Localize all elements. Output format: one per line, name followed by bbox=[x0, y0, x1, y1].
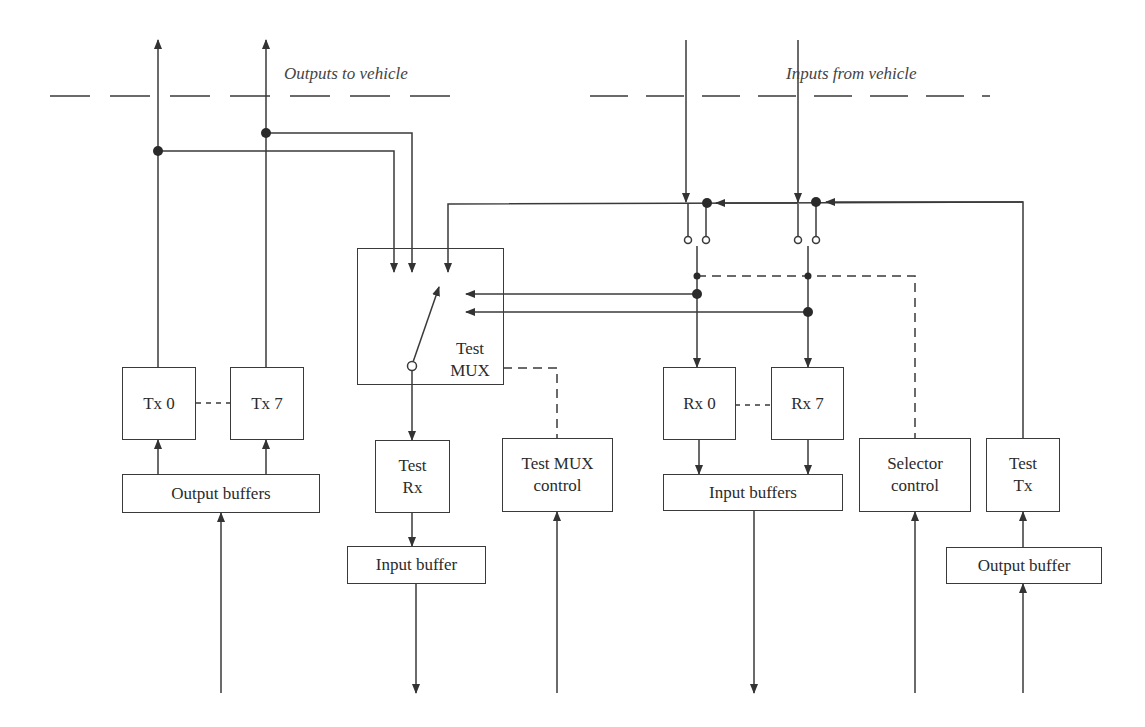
switch7-right-contact bbox=[813, 237, 820, 244]
rx7-control-dot bbox=[805, 273, 812, 280]
switch0-junction-dot bbox=[702, 198, 712, 208]
input-buffer-block: Input buffer bbox=[347, 546, 486, 584]
test-rx-block: Test Rx bbox=[375, 440, 450, 513]
rx7-block: Rx 7 bbox=[771, 367, 844, 440]
test-mux-label: Test MUX bbox=[440, 338, 500, 382]
input-buffers-block: Input buffers bbox=[663, 474, 843, 511]
inputs-from-vehicle-label: Inputs from vehicle bbox=[786, 64, 917, 84]
output-buffer-block: Output buffer bbox=[946, 547, 1102, 584]
switch7-junction-dot bbox=[811, 197, 821, 207]
rx0-block: Rx 0 bbox=[663, 367, 736, 440]
mux-control-dashed-line bbox=[503, 368, 557, 438]
tx7-junction-dot bbox=[261, 128, 271, 138]
tx0-junction-dot bbox=[153, 146, 163, 156]
switch0-left-contact bbox=[685, 237, 692, 244]
tx0-block: Tx 0 bbox=[122, 367, 196, 440]
switch7-left-contact bbox=[795, 237, 802, 244]
test-tx-block: Test Tx bbox=[986, 438, 1060, 512]
tx7-block: Tx 7 bbox=[230, 367, 304, 440]
rx0-tap-dot bbox=[692, 289, 702, 299]
outputs-to-vehicle-label: Outputs to vehicle bbox=[284, 64, 408, 84]
connection-lines bbox=[0, 0, 1145, 727]
selector-control-block: Selector control bbox=[859, 438, 971, 512]
rx7-tap-dot bbox=[803, 307, 813, 317]
rx0-control-dot bbox=[694, 273, 701, 280]
output-buffers-block: Output buffers bbox=[122, 474, 320, 513]
switch0-right-contact bbox=[703, 237, 710, 244]
test-mux-control-block: Test MUX control bbox=[502, 438, 613, 512]
